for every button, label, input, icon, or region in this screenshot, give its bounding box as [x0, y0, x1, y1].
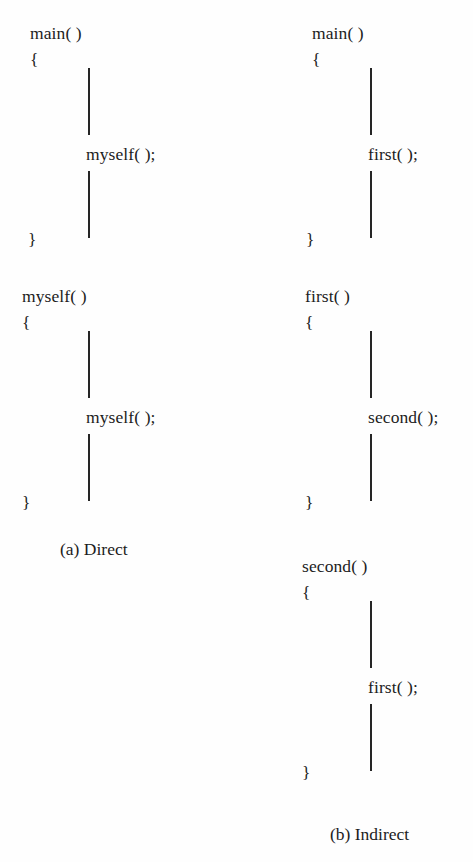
call-statement-myself: myself( );	[86, 146, 156, 164]
flow-line-first-upper	[370, 331, 372, 398]
open-brace-second: {	[302, 584, 311, 602]
caption-indirect: (b) Indirect	[330, 826, 409, 844]
function-header-myself: myself( )	[22, 288, 87, 306]
function-header-first: first( )	[305, 288, 350, 306]
flow-line-second-upper	[370, 601, 372, 668]
close-brace-second: }	[302, 764, 311, 782]
function-header-second: second( )	[302, 558, 368, 576]
function-header-main: main( )	[30, 25, 82, 43]
close-brace-myself: }	[22, 494, 31, 512]
close-brace-main: }	[28, 231, 37, 249]
flow-line-myself-upper	[88, 331, 90, 398]
open-brace-main: {	[312, 51, 321, 69]
flow-line-myself-lower	[88, 434, 90, 501]
flow-line-main-lower	[370, 171, 372, 238]
caption-direct: (a) Direct	[60, 541, 128, 559]
call-statement-myself-rec: myself( );	[86, 409, 156, 427]
call-statement-second: second( );	[368, 409, 439, 427]
flow-line-first-lower	[370, 434, 372, 501]
open-brace-main: {	[30, 51, 39, 69]
right-column-indirect: main( ) { first( ); } first( ) { second(…	[280, 0, 473, 862]
flow-line-main-upper	[88, 68, 90, 135]
flow-line-main-upper	[370, 68, 372, 135]
open-brace-first: {	[305, 314, 314, 332]
flow-line-second-lower	[370, 704, 372, 771]
close-brace-first: }	[305, 494, 314, 512]
call-statement-first-rec: first( );	[368, 679, 418, 697]
function-header-main: main( )	[312, 25, 364, 43]
call-statement-first: first( );	[368, 146, 418, 164]
recursion-figure: main( ) { myself( ); } myself( ) { mysel…	[0, 0, 473, 862]
close-brace-main: }	[306, 231, 315, 249]
open-brace-myself: {	[22, 314, 31, 332]
left-column-direct: main( ) { myself( ); } myself( ) { mysel…	[0, 0, 280, 862]
flow-line-main-lower	[88, 171, 90, 238]
